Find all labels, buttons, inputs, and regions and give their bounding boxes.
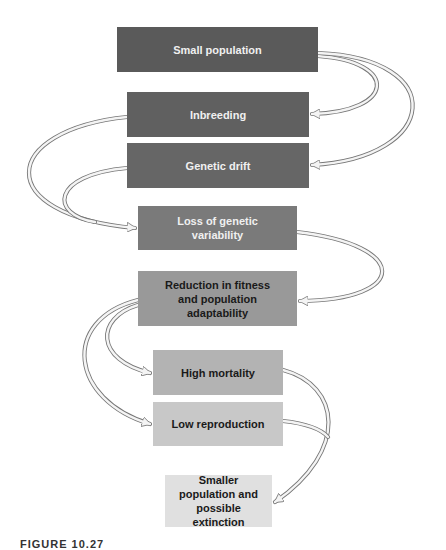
box-label: Loss of genetic variability bbox=[177, 214, 258, 242]
box-label: Reduction in fitness and population adap… bbox=[165, 278, 270, 320]
box-small-population: Small population bbox=[117, 27, 318, 72]
box-inbreeding: Inbreeding bbox=[127, 92, 309, 137]
box-label: Genetic drift bbox=[186, 159, 251, 173]
box-loss-of-genetic-variability: Loss of genetic variability bbox=[138, 206, 297, 250]
box-label: Inbreeding bbox=[190, 108, 246, 122]
box-high-mortality: High mortality bbox=[153, 350, 283, 395]
box-label: High mortality bbox=[181, 366, 255, 380]
figure-caption: FIGURE 10.27 bbox=[20, 538, 104, 550]
box-label: Low reproduction bbox=[172, 417, 265, 431]
box-smaller-population: Smaller population and possible extincti… bbox=[165, 475, 272, 527]
box-genetic-drift: Genetic drift bbox=[127, 143, 309, 188]
box-low-reproduction: Low reproduction bbox=[153, 402, 283, 446]
box-reduction-in-fitness: Reduction in fitness and population adap… bbox=[138, 271, 297, 326]
box-label: Smaller population and possible extincti… bbox=[171, 473, 266, 529]
box-label: Small population bbox=[173, 43, 262, 57]
